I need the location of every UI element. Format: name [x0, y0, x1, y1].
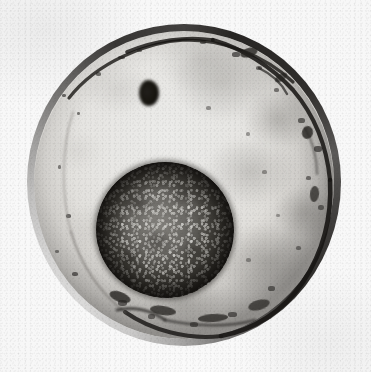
blastodisc	[96, 162, 234, 298]
pigment-speck	[318, 205, 324, 210]
pigment-speck	[246, 258, 251, 262]
pigment-speck	[268, 286, 275, 291]
pigment-speck	[256, 66, 262, 70]
pigment-speck	[314, 146, 322, 152]
pigment-speck	[190, 322, 198, 327]
blastodisc-notch	[139, 80, 159, 106]
pigment-speck	[96, 72, 101, 76]
photomicrograph-figure	[0, 0, 371, 372]
pigment-speck	[62, 94, 66, 97]
pigment-speck	[246, 132, 250, 136]
pigment-speck	[298, 118, 305, 123]
pigment-speck	[274, 88, 279, 92]
pigment-speck	[200, 40, 206, 44]
pigment-speck	[206, 106, 211, 110]
pigment-speck	[137, 49, 142, 52]
pigment-speck	[55, 250, 59, 253]
pigment-speck	[148, 314, 155, 319]
pigment-speck	[72, 272, 78, 276]
pigment-speck	[276, 214, 280, 217]
egg-cell	[27, 24, 341, 346]
pigment-speck	[58, 165, 61, 169]
pigment-speck	[296, 246, 301, 250]
pigment-speck	[262, 170, 267, 174]
pigment-speck	[118, 56, 125, 59]
pigment-speck	[77, 112, 80, 115]
pigment-speck	[306, 176, 311, 180]
pigment-speck	[228, 312, 237, 317]
pigment-speck	[232, 52, 240, 57]
blastodisc-rim	[96, 162, 234, 298]
pigment-speck	[66, 214, 71, 218]
